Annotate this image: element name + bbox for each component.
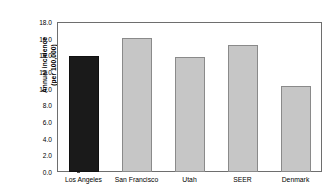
y-axis-tick-label: 14.0 xyxy=(24,52,52,59)
y-axis-tick-mark xyxy=(77,172,80,173)
x-axis-tick-label-seer: SEER xyxy=(216,175,269,184)
y-axis-tick-label: 2.0 xyxy=(24,152,52,159)
bar-chart-figure: Annual incidence (per 100,000) 18.016.01… xyxy=(0,0,334,193)
x-axis-tick-label-utah: Utah xyxy=(163,175,216,184)
y-axis-tick-label: 18.0 xyxy=(24,19,52,26)
plot-area-frame xyxy=(57,22,322,172)
y-axis-tick-label: 12.0 xyxy=(24,69,52,76)
y-axis-tick-label: 16.0 xyxy=(24,35,52,42)
y-axis-tick-label: 4.0 xyxy=(24,135,52,142)
y-axis-tick-label: 8.0 xyxy=(24,102,52,109)
y-axis-tick-label: 6.0 xyxy=(24,119,52,126)
y-axis-tick-labels: 18.016.014.012.010.08.06.04.02.00.0 xyxy=(24,22,52,172)
y-axis-tick-label: 0.0 xyxy=(24,169,52,176)
x-axis-tick-label-denmark: Denmark xyxy=(269,175,322,184)
x-axis-tick-label-san-francisco: San Francisco xyxy=(110,175,163,184)
x-axis-tick-label-los-angeles: Los Angeles xyxy=(57,175,110,184)
x-axis-tick-labels: Los AngelesSan FranciscoUtahSEERDenmark xyxy=(57,175,322,184)
y-axis-tick-label: 10.0 xyxy=(24,85,52,92)
